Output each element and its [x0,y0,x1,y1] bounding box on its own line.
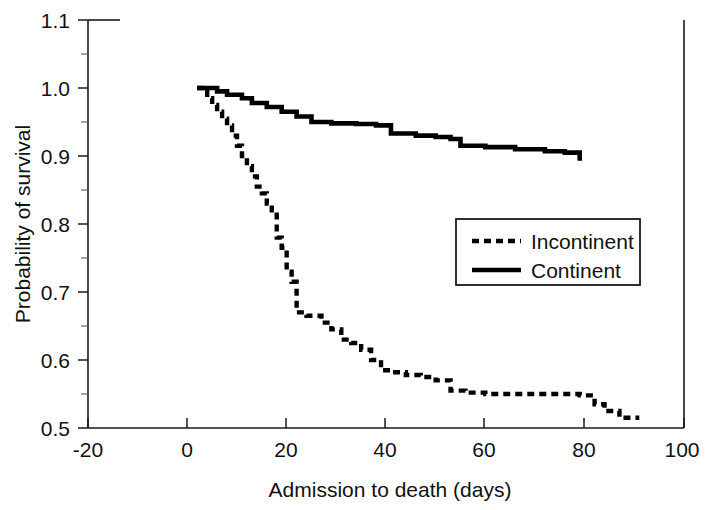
y-tick-label: 0.8 [41,213,70,236]
y-tick-label: 0.6 [41,349,70,372]
survival-chart-svg: 1.1 1.0 0.9 0.8 0.7 0.6 0.5 -20 0 20 40 … [0,0,705,510]
legend-label-continent: Continent [531,259,621,282]
y-tick-label: 0.9 [41,145,70,168]
chart-legend: Incontinent Continent [456,219,640,285]
x-axis-title: Admission to death (days) [269,478,512,501]
y-tick-label: 0.7 [41,281,70,304]
x-tick-label: -20 [73,438,103,461]
y-axis-title: Probability of survival [11,125,34,323]
y-tick-label: 1.0 [41,77,70,100]
x-tick-label: 40 [373,438,396,461]
x-tick-label: 100 [664,438,699,461]
x-tick-label: 60 [472,438,495,461]
x-axis-ticks [88,418,684,428]
x-tick-labels: -20 0 20 40 60 80 100 [73,438,700,461]
series-line-continent [197,88,579,161]
y-tick-label: 1.1 [41,9,70,32]
x-tick-label: 80 [572,438,595,461]
y-tick-label: 0.5 [41,417,70,440]
y-axis-ticks [78,20,88,428]
x-tick-label: 0 [181,438,193,461]
y-tick-labels: 1.1 1.0 0.9 0.8 0.7 0.6 0.5 [41,9,70,440]
x-tick-label: 20 [274,438,297,461]
legend-label-incontinent: Incontinent [531,230,634,253]
chart-figure: 1.1 1.0 0.9 0.8 0.7 0.6 0.5 -20 0 20 40 … [0,0,705,510]
